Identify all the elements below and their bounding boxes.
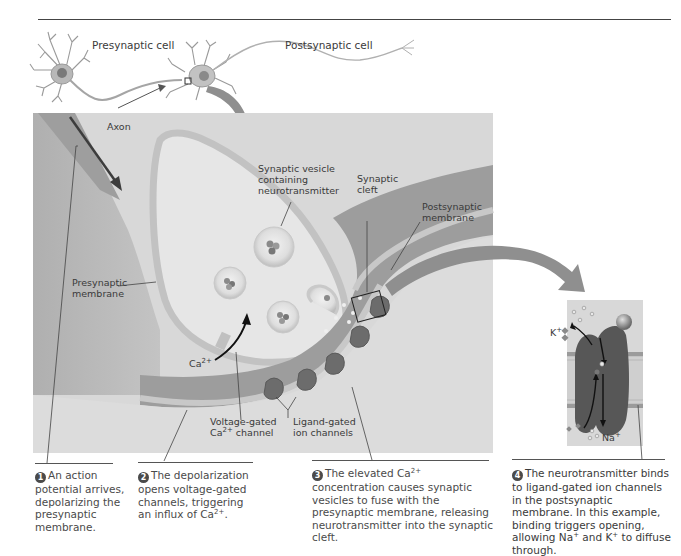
voltage-gated-label-line2: Ca2+ channel bbox=[210, 427, 277, 438]
synaptic-vesicle-label-line2: containing bbox=[258, 174, 339, 185]
step-4-number-badge: 4 bbox=[512, 470, 523, 481]
step-1-rule bbox=[35, 463, 113, 464]
step-1-text: An action potential arrives, depolarizin… bbox=[35, 469, 124, 533]
sodium-symbol: Na bbox=[602, 432, 615, 443]
calcium-ion-charge: 2+ bbox=[201, 357, 211, 365]
synaptic-vesicle-label-line1: Synaptic vesicle bbox=[258, 163, 339, 174]
step-3-text: The elevated Ca bbox=[325, 467, 411, 479]
voltage-gated-ca-symbol: Ca bbox=[210, 427, 222, 438]
synaptic-cleft-label-line2: cleft bbox=[357, 184, 398, 195]
ligand-gated-label-line1: Ligand-gated bbox=[293, 416, 356, 427]
voltage-gated-channel-label: Voltage-gated Ca2+ channel bbox=[210, 416, 277, 438]
potassium-ion-label: K+ bbox=[550, 327, 562, 338]
presynaptic-membrane-label-line2: membrane bbox=[72, 288, 127, 299]
sodium-ion-label: Na+ bbox=[602, 432, 621, 443]
step-2-number-badge: 2 bbox=[138, 472, 149, 483]
postsynaptic-cell-label: Postsynaptic cell bbox=[285, 40, 373, 51]
postsynaptic-membrane-label: Postsynaptic membrane bbox=[422, 201, 482, 223]
voltage-gated-ca-charge: 2+ bbox=[222, 426, 232, 434]
presynaptic-membrane-label: Presynaptic membrane bbox=[72, 277, 127, 299]
step-3-number-badge: 3 bbox=[312, 470, 323, 481]
voltage-gated-channel-word: channel bbox=[233, 427, 274, 438]
step-4-text-mid: and K bbox=[579, 531, 612, 543]
potassium-charge: + bbox=[556, 326, 562, 334]
step-3-rule bbox=[312, 460, 489, 461]
voltage-gated-label-line1: Voltage-gated bbox=[210, 416, 277, 427]
step-2-caption: 2The depolarization opens voltage-gated … bbox=[138, 469, 258, 521]
step-2-text-end: . bbox=[224, 508, 227, 520]
step-3-superscript: 2+ bbox=[411, 467, 421, 475]
presynaptic-cell-label: Presynaptic cell bbox=[92, 40, 174, 51]
step-2-text: The depolarization opens voltage-gated c… bbox=[138, 469, 249, 520]
ligand-gated-channels-label: Ligand-gated ion channels bbox=[293, 416, 356, 438]
step-1-number-badge: 1 bbox=[35, 472, 46, 483]
postsynaptic-membrane-label-line1: Postsynaptic bbox=[422, 201, 482, 212]
ligand-gated-label-line2: ion channels bbox=[293, 427, 356, 438]
synaptic-cleft-label: Synaptic cleft bbox=[357, 173, 398, 195]
step-4-rule bbox=[512, 459, 665, 460]
postsynaptic-membrane-label-line2: membrane bbox=[422, 212, 482, 223]
calcium-ion-label: Ca2+ bbox=[189, 358, 212, 369]
step-3-text-end: concentration causes synaptic vesicles t… bbox=[312, 481, 493, 543]
step-3-caption: 3The elevated Ca2+ concentration causes … bbox=[312, 467, 495, 544]
step-2-superscript: 2+ bbox=[214, 508, 224, 516]
step-4-caption: 4The neurotransmitter binds to ligand-ga… bbox=[512, 467, 674, 556]
sodium-charge: + bbox=[615, 431, 621, 439]
overview-signal-arrow bbox=[118, 88, 160, 108]
calcium-ion-symbol: Ca bbox=[189, 358, 201, 369]
synaptic-cleft-label-line1: Synaptic bbox=[357, 173, 398, 184]
synaptic-vesicle-label: Synaptic vesicle containing neurotransmi… bbox=[258, 163, 339, 196]
step-1-caption: 1An action potential arrives, depolarizi… bbox=[35, 469, 127, 533]
presynaptic-membrane-label-line1: Presynaptic bbox=[72, 277, 127, 288]
synaptic-vesicle-label-line3: neurotransmitter bbox=[258, 185, 339, 196]
step-2-rule bbox=[138, 462, 253, 463]
axon-label: Axon bbox=[107, 121, 131, 132]
